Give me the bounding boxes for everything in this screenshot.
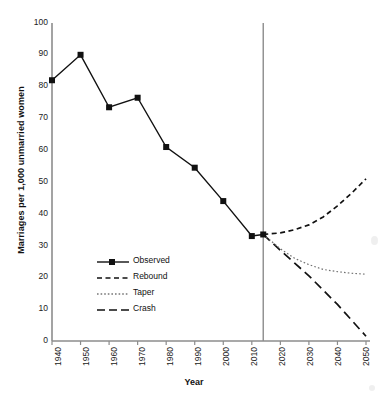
series-line-taper [263,234,366,274]
legend-item-observed: Observed [96,252,206,268]
legend-key-taper [96,286,130,298]
legend-item-rebound: Rebound [96,268,206,284]
plot-area [0,0,384,401]
legend-label-observed: Observed [133,255,170,265]
chart-figure: Marriages per 1,000 unmarried women 100 … [0,0,384,401]
scan-artifact-2 [369,385,375,391]
legend-label-taper: Taper [133,287,154,297]
legend-label-rebound: Rebound [133,271,168,281]
legend-key-rebound [96,270,130,282]
legend-label-crash: Crash [133,303,156,313]
scan-artifact-1 [371,236,378,245]
legend-item-crash: Crash [96,300,206,316]
legend-key-observed [96,254,130,266]
series-line-rebound [263,179,366,235]
series-line-crash [263,234,366,336]
legend-item-taper: Taper [96,284,206,300]
chart-legend: Observed Rebound Taper [96,252,206,316]
x-axis-title-text: Year [184,377,203,387]
series-line-observed [52,55,263,236]
x-axis-title: Year [0,377,384,387]
series-markers-observed [49,52,266,239]
legend-key-crash [96,302,130,314]
